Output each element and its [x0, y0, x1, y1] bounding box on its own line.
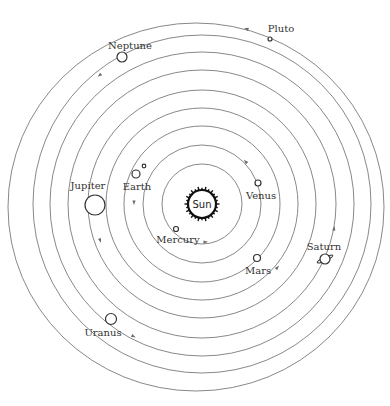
mercury-body-icon	[174, 227, 179, 232]
jupiter-label: Jupiter	[70, 180, 106, 191]
venus-label: Venus	[245, 190, 276, 201]
planet-uranus: Uranus	[84, 314, 121, 339]
venus-body-icon	[255, 180, 261, 186]
sun: Sun	[185, 187, 220, 221]
saturn-body-icon	[320, 254, 330, 264]
planet-venus: Venus	[245, 180, 276, 201]
moon-icon	[142, 164, 146, 168]
neptune-body-icon	[117, 52, 127, 62]
arrow-uranus-icon	[131, 334, 136, 338]
mars-body-icon	[254, 255, 261, 262]
solar-system-diagram: Sun MercuryVenusEarthMarsJupiterSaturnUr…	[0, 0, 390, 406]
planet-pluto: Pluto	[268, 23, 294, 41]
saturn-label: Saturn	[307, 241, 342, 252]
earth-label: Earth	[123, 181, 152, 192]
jupiter-body-icon	[85, 195, 105, 215]
planet-saturn: Saturn	[307, 241, 342, 264]
planet-mars: Mars	[245, 255, 271, 277]
uranus-label: Uranus	[84, 327, 121, 338]
planet-earth: Earth	[123, 164, 152, 192]
neptune-label: Neptune	[108, 40, 152, 51]
mars-label: Mars	[245, 265, 271, 276]
sun-label: Sun	[192, 199, 211, 210]
mercury-label: Mercury	[156, 234, 200, 245]
planet-mercury: Mercury	[156, 227, 200, 246]
arrow-jupiter-icon	[98, 238, 101, 243]
arrow-neptune-icon	[98, 73, 103, 77]
planet-jupiter: Jupiter	[70, 180, 106, 215]
earth-body-icon	[132, 170, 140, 178]
uranus-body-icon	[106, 314, 117, 325]
pluto-label: Pluto	[268, 23, 294, 34]
pluto-body-icon	[268, 37, 272, 41]
arrow-earth-icon	[132, 200, 135, 205]
